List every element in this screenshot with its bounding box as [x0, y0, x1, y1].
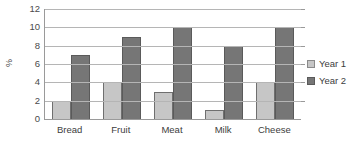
x-tick-label: Bread — [49, 124, 91, 135]
x-tick-label: Cheese — [253, 124, 295, 135]
y-axis-right-tick — [301, 64, 305, 65]
bar[interactable] — [173, 27, 192, 119]
y-axis-right-tick — [301, 46, 305, 47]
gridline — [45, 101, 301, 102]
gridline — [45, 27, 301, 28]
bar[interactable] — [275, 27, 294, 119]
legend-label: Year 1 — [319, 59, 346, 69]
x-tick-label: Fruit — [100, 124, 142, 135]
gridline — [45, 82, 301, 83]
bar-chart: % 024681012 BreadFruitMeatMilkCheese Yea… — [0, 0, 357, 161]
x-axis-tick-labels: BreadFruitMeatMilkCheese — [44, 124, 300, 140]
y-tick-label: 8 — [18, 41, 40, 51]
y-axis-title: % — [4, 48, 14, 78]
x-tick-label: Milk — [202, 124, 244, 135]
y-tick-label: 6 — [18, 59, 40, 69]
bar[interactable] — [154, 92, 173, 120]
y-axis-right-tick — [301, 101, 305, 102]
plot-area — [44, 9, 301, 120]
chart-legend: Year 1Year 2 — [307, 59, 346, 86]
legend-swatch-icon — [307, 77, 315, 85]
y-tick-label: 10 — [18, 23, 40, 33]
legend-item[interactable]: Year 1 — [307, 59, 346, 69]
y-axis-tick-labels: 024681012 — [18, 9, 40, 119]
y-tick-label: 4 — [18, 78, 40, 88]
legend-item[interactable]: Year 2 — [307, 76, 346, 86]
y-axis-right-tick — [301, 27, 305, 28]
y-tick-label: 12 — [18, 4, 40, 14]
gridline — [45, 9, 301, 10]
y-axis-right-tick — [301, 82, 305, 83]
y-tick-label: 2 — [18, 96, 40, 106]
legend-label: Year 2 — [319, 76, 346, 86]
gridline — [45, 46, 301, 47]
bar[interactable] — [122, 37, 141, 120]
gridline — [45, 64, 301, 65]
x-tick-label: Meat — [151, 124, 193, 135]
y-axis-right-tick — [301, 9, 305, 10]
bar[interactable] — [205, 110, 224, 119]
legend-swatch-icon — [307, 60, 315, 68]
y-tick-label: 0 — [18, 114, 40, 124]
bar[interactable] — [52, 101, 71, 119]
